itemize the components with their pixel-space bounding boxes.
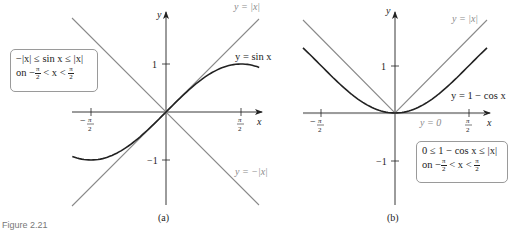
label-y-1-minus-cos-x-b: y = 1 − cos x <box>451 90 506 101</box>
label-y-sin-x-a: y = sin x <box>235 51 272 62</box>
label-y-abs-x-b: y = |x| <box>451 13 478 24</box>
interval-text-a: on −π2 < x < π2 <box>16 66 92 81</box>
svg-text:π: π <box>88 116 92 124</box>
y-axis-label-b: y <box>385 5 391 16</box>
svg-text:π: π <box>318 117 322 125</box>
svg-text:−: − <box>80 115 86 126</box>
label-y-zero-b: y = 0 <box>419 117 441 128</box>
x-tick-label-neg-pi2-b: − π 2 <box>310 116 324 134</box>
inequality-text-a: −|x| ≤ sin x ≤ |x| <box>16 52 92 66</box>
svg-text:2: 2 <box>88 125 92 133</box>
x-tick-label-neg-pi2-a: − π 2 <box>80 115 94 133</box>
panel-a: y x 1 −1 − π 2 π 2 y = |x| y = sin x y =… <box>72 1 272 224</box>
svg-text:−: − <box>310 116 316 127</box>
figure-canvas: y x 1 −1 − π 2 π 2 y = |x| y = sin x y =… <box>0 0 513 232</box>
y-tick-label-1-a: 1 <box>152 59 157 70</box>
x-axis-label-a: x <box>256 116 262 127</box>
panel-label-a: (a) <box>158 212 169 224</box>
inequality-box-b: 0 ≤ 1 − cos x ≤ |x| on −π2 < x < π2 <box>416 141 508 183</box>
interval-text-b: on −π2 < x < π2 <box>422 158 502 173</box>
svg-text:π: π <box>238 116 242 124</box>
panel-label-b: (b) <box>387 212 399 224</box>
svg-text:2: 2 <box>466 126 470 134</box>
x-tick-label-pi2-b: π 2 <box>465 117 472 134</box>
inequality-box-a: −|x| ≤ sin x ≤ |x| on −π2 < x < π2 <box>10 49 98 92</box>
svg-text:2: 2 <box>238 125 242 133</box>
label-y-abs-x-a: y = |x| <box>233 1 260 12</box>
y-tick-label-neg1-b: −1 <box>376 156 387 167</box>
x-axis-label-b: x <box>486 117 492 128</box>
x-tick-label-pi2-a: π 2 <box>237 116 244 133</box>
label-y-neg-abs-x-a: y = −|x| <box>234 166 268 177</box>
panel-b: y x 1 −1 − π 2 π 2 y = |x| y = 1 − cos x… <box>303 5 506 224</box>
y-axis-label-a: y <box>156 9 162 20</box>
svg-text:π: π <box>466 117 470 125</box>
svg-text:2: 2 <box>318 126 322 134</box>
inequality-text-b: 0 ≤ 1 − cos x ≤ |x| <box>422 144 502 158</box>
figure-caption: Figure 2.21 <box>2 220 48 230</box>
y-tick-label-neg1-a: −1 <box>147 155 158 166</box>
y-tick-label-1-b: 1 <box>381 61 386 72</box>
